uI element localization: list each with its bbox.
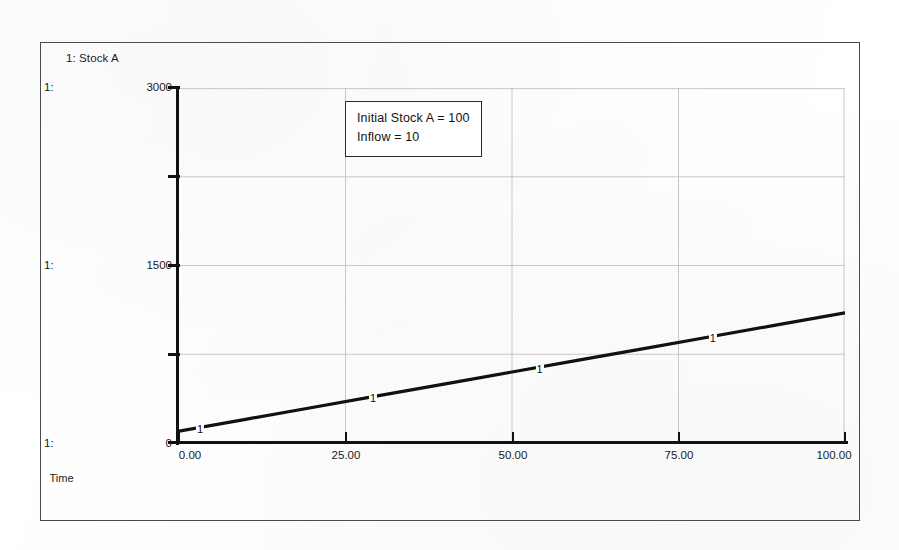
plot-area xyxy=(179,88,845,443)
x-tick-mark-75 xyxy=(678,432,680,443)
legend-entry-stock-a: 1: Stock A xyxy=(66,52,119,64)
annotation-line-initial-stock: Initial Stock A = 100 xyxy=(357,109,470,128)
scale-index-middle: 1: xyxy=(44,259,54,271)
scale-index-top: 1: xyxy=(44,81,54,93)
series-marker-4: 1 xyxy=(709,333,717,344)
x-tick-label-25: 25.00 xyxy=(332,449,361,461)
x-tick-mark-25 xyxy=(345,432,347,443)
y-tick-label-0: 0 xyxy=(112,437,172,449)
series-marker-2: 1 xyxy=(369,393,377,404)
x-tick-label-50: 50.00 xyxy=(499,449,528,461)
series-marker-1: 1 xyxy=(196,424,204,435)
x-tick-mark-100 xyxy=(844,432,846,443)
x-tick-label-0: 0.00 xyxy=(179,449,201,461)
x-axis-title-text: Time xyxy=(49,472,73,484)
y-tick-mark-2250 xyxy=(168,175,180,178)
gridlines xyxy=(179,88,845,443)
x-tick-label-75: 75.00 xyxy=(665,449,694,461)
series-marker-3: 1 xyxy=(536,363,544,374)
y-tick-mark-750 xyxy=(168,353,180,356)
x-tick-mark-50 xyxy=(512,432,514,443)
x-tick-mark-0 xyxy=(178,432,180,443)
annotation-line-inflow: Inflow = 10 xyxy=(357,128,470,147)
y-tick-mark-3000 xyxy=(168,86,180,89)
chart-canvas xyxy=(179,88,845,443)
x-axis-title: Time xyxy=(0,472,899,484)
y-tick-mark-1500 xyxy=(168,264,180,267)
x-tick-label-100: 100.00 xyxy=(816,449,851,461)
y-tick-label-3000: 3000 xyxy=(112,81,172,93)
scale-index-bottom: 1: xyxy=(44,437,54,449)
annotation-callout: Initial Stock A = 100 Inflow = 10 xyxy=(345,101,482,157)
y-tick-label-1500: 1500 xyxy=(112,259,172,271)
